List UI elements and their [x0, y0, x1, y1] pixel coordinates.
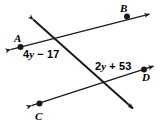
point-label-B: B: [120, 3, 127, 14]
point-label-C: C: [35, 111, 42, 122]
point-label-D: D: [142, 72, 150, 83]
angle-1-constant: 17: [47, 48, 59, 60]
geometry-figure: A B C D 4y − 17 2y + 53: [0, 0, 161, 128]
geometry-canvas: [0, 0, 161, 128]
point-dot-C: [37, 101, 43, 107]
point-label-A: A: [14, 33, 21, 44]
angle-expression-1: 4y − 17: [23, 49, 59, 60]
angle-2-constant: 53: [119, 60, 131, 72]
line-AB: [11, 14, 150, 49]
angle-expression-2: 2y + 53: [95, 61, 131, 72]
point-dot-B: [124, 13, 130, 19]
